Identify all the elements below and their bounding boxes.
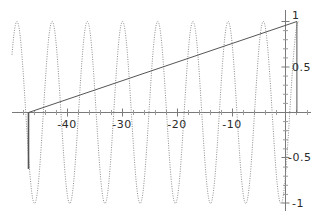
y-tick-label-3: -0.5 — [288, 152, 311, 163]
chart-canvas: -40 -30 -20 -10 1 0.5 -0.5 -1 — [0, 0, 324, 218]
x-tick-label-1: -40 — [57, 119, 76, 130]
x-tick-label-2: -30 — [112, 119, 131, 130]
series-envelope-line — [29, 22, 297, 113]
y-tick-label-4: -1 — [292, 198, 304, 209]
x-tick-label-3: -20 — [167, 119, 186, 130]
chart-plot-area — [0, 0, 324, 218]
y-tick-label-2: 0.5 — [292, 62, 311, 73]
y-tick-label-1: 1 — [292, 10, 300, 21]
x-tick-label-4: -10 — [222, 119, 241, 130]
